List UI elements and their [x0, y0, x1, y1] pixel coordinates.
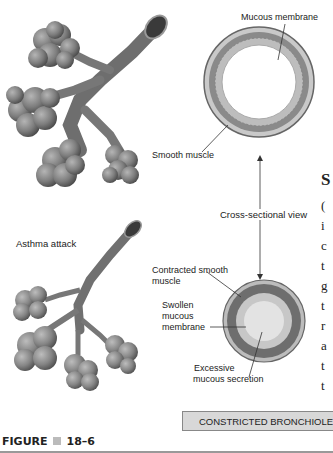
constricted-bronchiole-caption: CONSTRICTED BRONCHIOLE: [182, 411, 333, 431]
asthma-attack-label: Asthma attack: [16, 238, 76, 249]
contracted-smooth-muscle-label-2: muscle: [152, 276, 181, 287]
contracted-leader: [205, 270, 245, 300]
swollen-label-2: mucous: [162, 311, 194, 322]
excessive-leader: [245, 330, 265, 380]
swollen-label-1: Swollen: [162, 300, 194, 311]
figure-label: FIGURE18–6: [2, 435, 95, 448]
normal-bronchiole-illustration: [0, 0, 180, 200]
excessive-label-1: Excessive: [194, 363, 235, 374]
swollen-leader: [208, 324, 248, 330]
smooth-muscle-leader: [200, 120, 240, 155]
cross-sectional-view-label: Cross-sectional view: [218, 209, 309, 220]
cut-off-text-column: S ( i c t g t r a t t: [321, 170, 330, 396]
swollen-label-3: membrane: [162, 322, 205, 333]
mucous-membrane-leader: [270, 22, 290, 62]
square-bullet-icon: [53, 437, 61, 445]
